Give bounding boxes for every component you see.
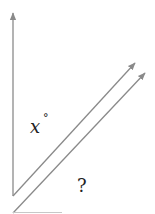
geometry-diagram: x ° ?	[0, 0, 155, 214]
unknown-angle-label: ?	[77, 175, 87, 196]
angle-x-label: x	[30, 116, 40, 137]
degree-symbol: °	[43, 112, 49, 125]
